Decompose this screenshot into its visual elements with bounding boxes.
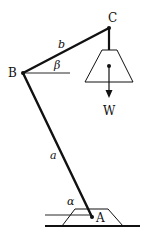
arrow-down-icon xyxy=(106,90,113,98)
linkage-diagram: C B A W b a β α xyxy=(0,0,145,243)
bar-label-a: a xyxy=(50,149,57,162)
point-label-c: C xyxy=(108,11,117,25)
bar-a xyxy=(23,73,92,217)
point-label-a: A xyxy=(95,211,105,225)
angle-label-beta: β xyxy=(53,59,60,72)
point-label-b: B xyxy=(8,66,17,80)
joint-a xyxy=(90,215,94,219)
angle-label-alpha: α xyxy=(67,195,75,208)
bar-label-b: b xyxy=(58,38,65,51)
joint-c xyxy=(107,26,111,30)
load-label-w: W xyxy=(103,104,116,118)
joint-b xyxy=(21,71,25,75)
